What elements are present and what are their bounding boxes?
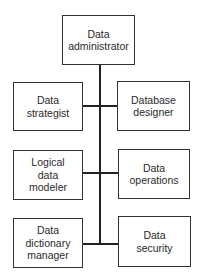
node-data-operations: Data operations <box>118 149 190 199</box>
node-label: Data strategist <box>27 94 70 119</box>
node-label: Data security <box>136 229 172 254</box>
node-data-administrator: Data administrator <box>62 15 135 65</box>
node-label: Data operations <box>129 162 178 187</box>
row3-connector <box>82 243 118 245</box>
node-label: Database designer <box>131 94 176 119</box>
node-database-designer: Database designer <box>117 81 190 131</box>
node-data-dictionary-manager: Data dictionary manager <box>13 218 83 268</box>
node-label: Data administrator <box>68 28 129 53</box>
row1-connector <box>82 105 118 107</box>
trunk-line <box>99 64 101 245</box>
node-logical-data-modeler: Logical data modeler <box>13 150 83 200</box>
node-label: Data dictionary manager <box>26 224 71 262</box>
node-data-security: Data security <box>118 216 191 267</box>
node-label: Logical data modeler <box>29 156 67 194</box>
row2-connector <box>82 172 118 174</box>
node-data-strategist: Data strategist <box>13 82 83 131</box>
